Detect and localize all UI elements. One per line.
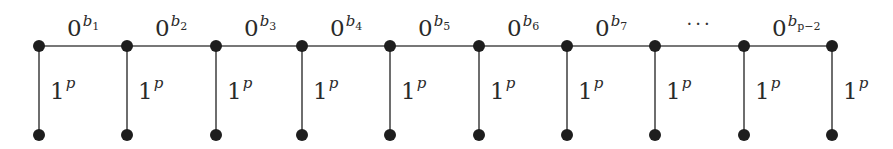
top-node [121, 40, 133, 52]
vertical-edge-label: 1p [401, 74, 427, 104]
ellipsis-label: ··· [687, 13, 713, 34]
top-edge-label: 0b5 [418, 12, 450, 41]
bottom-node [738, 129, 750, 141]
top-node [473, 40, 485, 52]
bottom-node [473, 129, 485, 141]
vertical-edge-label: 1p [50, 74, 76, 104]
top-node [561, 40, 573, 52]
vertical-edge-label: 1p [755, 74, 781, 104]
vertical-edge-label: 1p [666, 74, 692, 104]
top-node [33, 40, 45, 52]
vertical-edge-label: 1p [313, 74, 339, 104]
top-node [826, 40, 838, 52]
bottom-node [121, 129, 133, 141]
comb-diagram: 0b10b20b30b40b50b60b7···0bp−21p1p1p1p1p1… [0, 0, 893, 149]
bottom-node [649, 129, 661, 141]
bottom-node [561, 129, 573, 141]
vertical-edge-label: 1p [578, 74, 604, 104]
bottom-node [33, 129, 45, 141]
bottom-node [826, 129, 838, 141]
bottom-node [296, 129, 308, 141]
vertical-edge-label: 1p [490, 74, 516, 104]
top-edge-label: 0b2 [155, 12, 187, 41]
top-edge-label: 0bp−2 [772, 12, 821, 41]
vertical-edge-label: 1p [843, 74, 869, 104]
top-edge-label: 0b3 [244, 12, 276, 41]
top-node [296, 40, 308, 52]
top-edge-label: 0b4 [330, 12, 362, 41]
vertical-edge-label: 1p [227, 74, 253, 104]
top-node [384, 40, 396, 52]
top-node [738, 40, 750, 52]
top-node [210, 40, 222, 52]
top-edge-label: 0b1 [67, 12, 99, 41]
bottom-node [384, 129, 396, 141]
bottom-node [210, 129, 222, 141]
top-edge-label: 0b7 [595, 12, 627, 41]
top-node [649, 40, 661, 52]
top-edge-label: 0b6 [507, 12, 539, 41]
vertical-edge-label: 1p [138, 74, 164, 104]
